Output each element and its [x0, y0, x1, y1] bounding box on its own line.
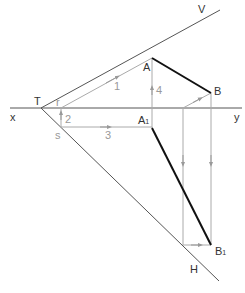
label-s: s [55, 130, 61, 141]
segment-a1b1 [152, 128, 211, 245]
diagram-canvas [0, 0, 245, 293]
label-step-1: 1 [114, 81, 120, 92]
label-y: y [234, 112, 240, 123]
label-t: T [34, 96, 41, 107]
label-step-3: 3 [105, 130, 111, 141]
label-step-2: 2 [65, 114, 71, 125]
label-b: B [214, 86, 221, 97]
label-step-4: 4 [156, 85, 162, 96]
label-a1: A1 [138, 115, 149, 126]
h-trace-line [41, 108, 219, 281]
label-h: H [190, 264, 198, 275]
v-trace-line [41, 10, 220, 108]
label-v: V [198, 4, 205, 15]
arrow-bx [193, 98, 201, 102]
label-b1: B1 [215, 246, 226, 257]
label-x: x [10, 112, 16, 123]
label-a: A [143, 62, 150, 73]
label-r: r [56, 97, 60, 108]
